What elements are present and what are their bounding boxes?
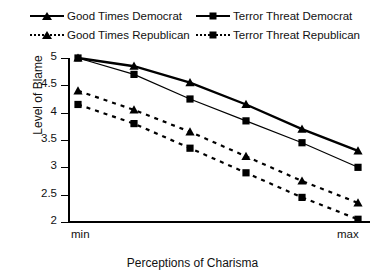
plot-area [68,58,370,222]
x-tick-label-max: max [337,228,359,240]
data-point-marker [130,71,137,78]
y-tick-label: 2 [29,214,57,226]
y-tick [61,58,68,59]
series-good-times-democrat [73,53,362,154]
series-layer [68,58,370,222]
data-point-marker [298,194,305,201]
y-tick [61,167,68,168]
data-point-marker [298,139,305,146]
y-tick [61,195,68,196]
legend-key-triangle-solid-icon [30,10,64,22]
series-line [78,58,358,167]
y-tick [61,85,68,86]
data-point-marker [242,117,249,124]
data-point-marker [74,54,81,61]
legend-item-good-times-democrat: Good Times Democrat [30,10,196,22]
series-line [78,58,358,151]
data-point-marker [241,152,250,160]
legend-item-terror-threat-democrat: Terror Threat Democrat [196,10,352,22]
legend-label: Good Times Republican [64,29,190,41]
y-tick-label: 2.5 [29,187,57,199]
data-point-marker [242,169,249,176]
series-terror-threat-republican [74,101,361,223]
data-point-marker [73,86,82,94]
data-point-marker [354,216,361,223]
legend-label: Good Times Democrat [64,10,182,22]
legend-label: Terror Threat Republican [230,29,360,41]
series-good-times-republican [73,86,362,206]
data-point-marker [297,176,306,184]
legend-item-terror-threat-republican: Terror Threat Republican [196,29,360,41]
y-tick [61,140,68,141]
chart-legend: Good Times Democrat Terror Threat Democr… [30,6,380,44]
series-line [78,91,358,203]
legend-row: Good Times Democrat Terror Threat Democr… [30,6,380,25]
data-point-marker [185,127,194,135]
y-axis-title: Level of Blame [31,25,45,165]
data-point-marker [130,120,137,127]
data-point-marker [186,145,193,152]
data-point-marker [354,164,361,171]
legend-key-square-dashed-icon [196,29,230,41]
legend-label: Terror Threat Democrat [230,10,352,22]
legend-key-square-solid-icon [196,10,230,22]
x-tick-label-min: min [71,228,90,240]
y-tick [61,113,68,114]
legend-item-good-times-republican: Good Times Republican [30,29,196,41]
data-point-marker [186,95,193,102]
chart-figure: Good Times Democrat Terror Threat Democr… [0,0,385,278]
series-line [78,105,358,220]
data-point-marker [74,101,81,108]
series-terror-threat-democrat [74,54,361,171]
x-axis-title: Perceptions of Charisma [0,256,385,270]
y-tick [61,222,68,223]
legend-row: Good Times Republican Terror Threat Repu… [30,25,380,44]
